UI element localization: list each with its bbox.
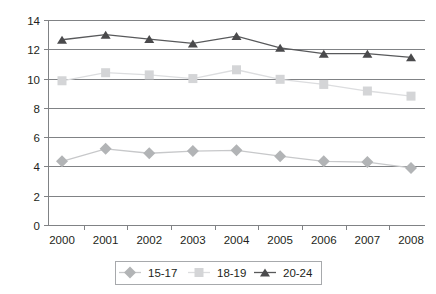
x-tick-label-2004: 2004 <box>224 234 250 246</box>
series-15-17-marker-0 <box>56 155 68 167</box>
line-chart: 02468101214 2000200120022003200420052006… <box>0 0 436 294</box>
y-axis-tick-labels: 02468101214 <box>27 15 40 232</box>
series-15-17-marker-1 <box>100 143 112 155</box>
x-tick-label-2007: 2007 <box>355 234 381 246</box>
gridlines <box>48 21 425 197</box>
x-tick-label-2001: 2001 <box>93 234 119 246</box>
series-18-19-marker-0 <box>58 76 67 85</box>
y-tick-label-6: 6 <box>34 132 40 144</box>
x-tick-label-2000: 2000 <box>49 234 75 246</box>
y-tick-label-0: 0 <box>34 220 40 232</box>
series-18-19-marker-2 <box>145 70 154 79</box>
legend-18-19-marker-swatch <box>195 268 204 277</box>
y-tick-label-4: 4 <box>34 161 41 173</box>
series-18-19-marker-8 <box>407 92 416 101</box>
series-18-19-marker-6 <box>319 80 328 89</box>
chart-canvas: 02468101214 2000200120022003200420052006… <box>0 0 436 294</box>
y-tick-label-2: 2 <box>34 191 40 203</box>
series-15-17-marker-6 <box>318 155 330 167</box>
series-15-17-marker-5 <box>274 150 286 162</box>
y-tick-label-10: 10 <box>27 74 40 86</box>
series-18-19-marker-1 <box>101 68 110 77</box>
legend-label-18-19: 18-19 <box>217 267 246 279</box>
chart-legend: 15-1718-1920-24 <box>116 262 322 285</box>
y-axis-ticks <box>44 21 48 226</box>
series-18-19-marker-7 <box>363 87 372 96</box>
x-tick-label-2006: 2006 <box>311 234 337 246</box>
series-15-17-marker-2 <box>143 147 155 159</box>
series-15-17-marker-3 <box>187 145 199 157</box>
x-axis-tick-labels: 200020012002200320042005200620072008 <box>49 234 424 246</box>
legend-label-20-24: 20-24 <box>283 267 313 279</box>
y-tick-label-12: 12 <box>27 44 40 56</box>
x-tick-label-2005: 2005 <box>267 234 293 246</box>
y-tick-label-14: 14 <box>27 15 40 27</box>
x-tick-label-2002: 2002 <box>136 234 162 246</box>
series-15-17-marker-4 <box>231 144 243 156</box>
y-tick-label-8: 8 <box>34 103 40 115</box>
series-18-19-marker-3 <box>188 74 197 83</box>
series-markers <box>56 31 417 174</box>
x-tick-label-2008: 2008 <box>398 234 424 246</box>
series-18-19-marker-4 <box>232 65 241 74</box>
x-tick-label-2003: 2003 <box>180 234 206 246</box>
series-18-19-marker-5 <box>276 75 285 84</box>
series-15-17-marker-8 <box>405 162 417 174</box>
legend-label-15-17: 15-17 <box>148 267 177 279</box>
